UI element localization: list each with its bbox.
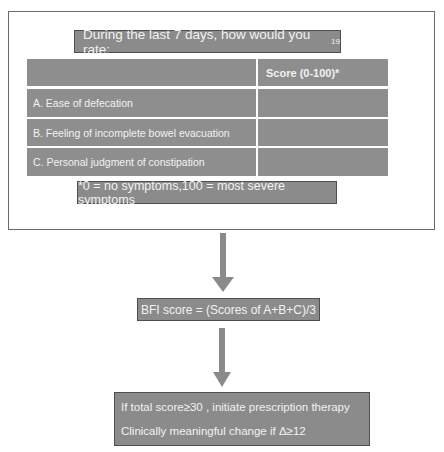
questionnaire-title: During the last 7 days, how would you ra… [74, 30, 341, 53]
table-row: A. Ease of defecation [27, 89, 388, 117]
questionnaire-title-text: During the last 7 days, how would you ra… [83, 27, 331, 57]
down-arrow-icon [210, 233, 236, 293]
table-header-item [27, 59, 256, 86]
bfi-formula-box: BFI score = (Scores of A+B+C)/3 [137, 298, 320, 321]
down-arrow-icon [209, 328, 235, 388]
table-cell-item: A. Ease of defecation [27, 89, 256, 117]
table-cell-score [258, 119, 388, 146]
table-cell-item: C. Personal judgment of constipation [27, 148, 256, 176]
table-row: B. Feeling of incomplete bowel evacuatio… [27, 119, 388, 146]
meaningful-change-text: Clinically meaningful change if Δ≥12 [121, 425, 306, 437]
table-cell-item: B. Feeling of incomplete bowel evacuatio… [27, 119, 256, 146]
table-cell-score [258, 148, 388, 176]
treatment-guidance-box: If total score≥30 , initiate prescriptio… [114, 392, 370, 446]
table-header-row: Score (0-100)* [27, 59, 388, 86]
table-header-score: Score (0-100)* [258, 59, 388, 86]
treatment-threshold-text: If total score≥30 , initiate prescriptio… [121, 401, 350, 413]
score-footnote: *0 = no symptoms,100 = most severe sympt… [77, 181, 337, 204]
score-footnote-text: *0 = no symptoms,100 = most severe sympt… [78, 179, 336, 207]
bfi-formula-text: BFI score = (Scores of A+B+C)/3 [141, 303, 316, 317]
table-cell-score [258, 89, 388, 117]
table-row: C. Personal judgment of constipation [27, 148, 388, 176]
